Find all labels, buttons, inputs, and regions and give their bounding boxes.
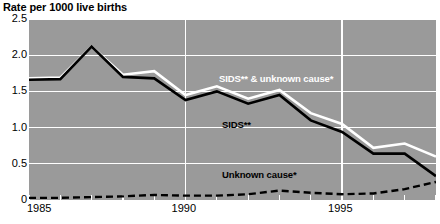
y-axis: 2.52.01.51.00.50 [0,19,27,200]
x-tick-label: 1990 [172,202,196,214]
y-tick-label: 1.0 [12,122,27,133]
x-axis: 198519901995 [29,202,436,222]
series-label-sids-and-unknown: SIDS** & unknown cause* [219,73,333,84]
series-label-sids: SIDS** [222,119,251,130]
y-tick-label: 2.0 [12,49,27,60]
series-line [29,47,436,177]
y-tick-label: 0.5 [12,158,27,169]
x-tick-label: 1985 [27,202,51,214]
chart-figure: Rate per 1000 live births 2.52.01.51.00.… [0,0,440,224]
series-line [29,47,436,157]
series-line [29,182,436,198]
y-tick-label: 2.5 [12,13,27,24]
x-tick-label: 1995 [328,202,352,214]
series-label-unknown-cause: Unknown cause* [222,169,297,180]
y-tick-label: 1.5 [12,85,27,96]
